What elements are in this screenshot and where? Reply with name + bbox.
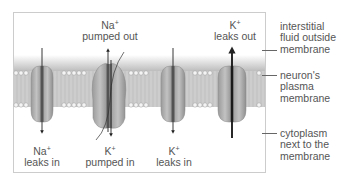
leader-line-plasma-membrane bbox=[262, 75, 277, 76]
label-k-leaks-in: K+ leaks in bbox=[152, 146, 196, 168]
label-cytoplasm: cytoplasm next to the membrane bbox=[280, 128, 330, 162]
label-k-pumped-in: K+ pumped in bbox=[82, 146, 138, 168]
ion-charge: + bbox=[47, 145, 51, 152]
membrane-diagram: Na+ pumped out K+ leaks out Na+ leaks in… bbox=[0, 0, 353, 180]
label-k-leaks-out: K+ leaks out bbox=[210, 20, 260, 42]
label-line: plasma bbox=[280, 80, 314, 92]
label-line: neuron's bbox=[280, 69, 320, 81]
label-line: fluid outside bbox=[280, 31, 336, 43]
label-plasma-membrane: neuron's plasma membrane bbox=[280, 70, 330, 104]
label-line: cytoplasm bbox=[280, 127, 327, 139]
ion-action: leaks out bbox=[214, 30, 256, 42]
leader-line-interstitial bbox=[262, 50, 277, 51]
ion-action: pumped out bbox=[82, 30, 137, 42]
label-interstitial-fluid: interstitial fluid outside membrane bbox=[280, 21, 336, 55]
ion-charge: + bbox=[111, 145, 115, 152]
ion-action: pumped in bbox=[85, 156, 134, 168]
ion-charge: + bbox=[236, 19, 240, 26]
leader-line-cytoplasm bbox=[262, 133, 277, 134]
label-line: next to the bbox=[280, 138, 329, 150]
label-line: interstitial bbox=[280, 20, 324, 32]
ion-charge: + bbox=[175, 145, 179, 152]
label-line: membrane bbox=[280, 43, 330, 55]
ion-action: leaks in bbox=[24, 156, 60, 168]
ion-charge: + bbox=[115, 19, 119, 26]
label-na-pumped-out: Na+ pumped out bbox=[80, 20, 140, 42]
label-line: membrane bbox=[280, 150, 330, 162]
ion-action: leaks in bbox=[156, 156, 192, 168]
label-na-leaks-in: Na+ leaks in bbox=[20, 146, 64, 168]
label-line: membrane bbox=[280, 92, 330, 104]
